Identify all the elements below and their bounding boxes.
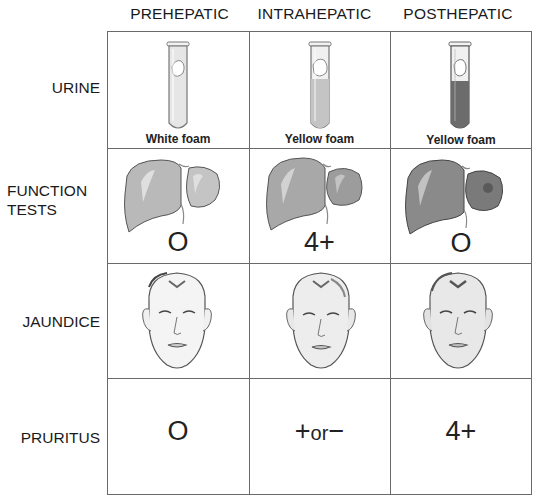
function-tests-cell-posthepatic: O xyxy=(390,148,532,263)
pruritus-cell-prehepatic: O xyxy=(107,378,249,495)
minus-sign: − xyxy=(328,416,344,446)
urine-cell-prehepatic: White foam xyxy=(107,31,249,148)
pruritus-cell-intrahepatic: +or− xyxy=(249,378,390,495)
function-tests-value-posthepatic: O xyxy=(390,228,532,259)
liver-icon xyxy=(402,156,512,236)
pruritus-value-posthepatic: 4+ xyxy=(390,416,532,447)
row-header-pruritus-text: PRURITUS xyxy=(21,429,100,446)
row-header-pruritus: PRURITUS xyxy=(0,428,100,447)
jaundice-cell-intrahepatic xyxy=(249,263,390,378)
jaundice-cell-posthepatic xyxy=(390,263,532,378)
row-header-function-text: FUNCTION xyxy=(7,181,107,200)
column-header-posthepatic: POSTHEPATIC xyxy=(388,5,528,23)
row-header-urine-text: URINE xyxy=(52,79,100,96)
function-tests-value-prehepatic: O xyxy=(107,227,249,258)
urine-cell-posthepatic: Yellow foam xyxy=(390,31,532,148)
row-header-tests-text: TESTS xyxy=(7,200,107,219)
function-tests-cell-prehepatic: O xyxy=(107,148,249,263)
or-text: or xyxy=(311,422,329,444)
function-tests-value-intrahepatic: 4+ xyxy=(249,227,390,258)
urine-caption-prehepatic: White foam xyxy=(107,132,249,146)
liver-icon xyxy=(263,154,373,234)
urine-cell-intrahepatic: Yellow foam xyxy=(249,31,390,148)
urine-caption-intrahepatic: Yellow foam xyxy=(249,132,390,146)
face-icon xyxy=(418,267,498,375)
row-header-urine: URINE xyxy=(0,78,100,97)
plus-sign: + xyxy=(295,416,311,446)
column-header-intrahepatic: INTRAHEPATIC xyxy=(242,5,387,23)
face-icon xyxy=(137,267,217,375)
urine-caption-posthepatic: Yellow foam xyxy=(390,133,532,147)
test-tube-icon xyxy=(163,41,193,133)
column-header-prehepatic: PREHEPATIC xyxy=(117,5,242,23)
function-tests-cell-intrahepatic: 4+ xyxy=(249,148,390,263)
row-header-function-tests: FUNCTION TESTS xyxy=(7,181,107,219)
pruritus-cell-posthepatic: 4+ xyxy=(390,378,532,495)
face-icon xyxy=(281,267,361,375)
row-header-jaundice-text: JAUNDICE xyxy=(22,313,100,330)
test-tube-icon xyxy=(305,41,335,133)
liver-icon xyxy=(121,154,231,234)
test-tube-icon xyxy=(445,41,475,133)
row-header-jaundice: JAUNDICE xyxy=(0,312,100,331)
pruritus-value-intrahepatic: +or− xyxy=(249,416,390,447)
pruritus-value-prehepatic: O xyxy=(107,416,249,447)
jaundice-cell-prehepatic xyxy=(107,263,249,378)
